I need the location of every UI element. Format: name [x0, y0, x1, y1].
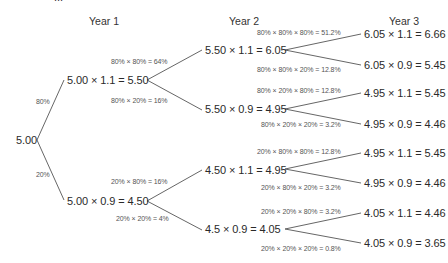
edge-d-du [147, 170, 202, 201]
edge-prob-uuu: 80% × 80% × 80% = 51.2% [257, 29, 341, 36]
edge-prob-du: 20% × 80% = 16% [111, 178, 168, 185]
node-year3-uud: 6.05 × 0.9 = 5.45 [364, 60, 445, 71]
edge-dd-ddu [285, 213, 361, 229]
edge-prob-udu: 80% × 20% × 80% = 12.8% [257, 87, 341, 94]
edge-uu-uud [285, 50, 361, 65]
node-year3-ddu: 4.05 × 1.1 = 4.46 [364, 208, 445, 219]
node-year2-dd: 4.5 × 0.9 = 4.05 [205, 224, 280, 235]
edge-root-up [37, 80, 64, 140]
edge-prob-up: 80% [36, 98, 50, 105]
node-year3-duu: 4.95 × 1.1 = 5.45 [364, 148, 445, 159]
edge-uu-uuu [285, 34, 361, 50]
edge-prob-ddu: 20% × 20% × 80% = 3.2% [261, 208, 341, 215]
node-year1-up: 5.00 × 1.1 = 5.50 [67, 75, 148, 86]
edge-prob-dud: 20% × 80% × 20% = 3.2% [261, 184, 341, 191]
edge-du-dud [285, 169, 361, 183]
node-year2-du: 4.50 × 1.1 = 4.95 [205, 165, 286, 176]
edge-prob-uud: 80% × 80% × 20% = 12.8% [257, 66, 341, 73]
node-year3-udu: 4.95 × 1.1 = 5.45 [364, 88, 445, 99]
node-year3-dud: 4.95 × 0.9 = 4.46 [364, 178, 445, 189]
edge-prob-uu: 80% × 80% = 64% [111, 58, 168, 65]
edge-dd-ddd [285, 229, 361, 243]
cropped-text-fragment: ... [54, 0, 63, 3]
edge-root-down [37, 140, 64, 200]
root-node: 5.00 [16, 135, 37, 146]
edge-prob-down: 20% [36, 171, 50, 178]
edge-prob-dd: 20% × 20% = 4% [116, 215, 169, 222]
edge-prob-duu: 20% × 80% × 80% = 12.8% [257, 148, 341, 155]
edge-prob-udd: 80% × 20% × 20% = 3.2% [261, 121, 341, 128]
node-year3-udd: 4.95 × 0.9 = 4.46 [364, 119, 445, 130]
edge-u-ud [147, 80, 202, 110]
node-year2-ud: 5.50 × 0.9 = 4.95 [205, 104, 286, 115]
node-year1-down: 5.00 × 0.9 = 4.50 [67, 196, 148, 207]
edge-prob-ud: 80% × 20% = 16% [111, 97, 168, 104]
header-year-1: Year 1 [89, 16, 119, 27]
node-year3-ddd: 4.05 × 0.9 = 3.65 [364, 238, 445, 249]
edge-prob-ddd: 20% × 20% × 20% = 0.8% [261, 245, 341, 252]
node-year3-uuu: 6.05 × 1.1 = 6.66 [364, 29, 445, 40]
edge-ud-udu [285, 93, 361, 109]
node-year2-uu: 5.50 × 1.1 = 6.05 [205, 45, 286, 56]
edge-u-uu [147, 50, 202, 80]
header-year-2: Year 2 [229, 16, 259, 27]
edge-du-duu [285, 153, 361, 169]
header-year-3: Year 3 [389, 16, 419, 27]
